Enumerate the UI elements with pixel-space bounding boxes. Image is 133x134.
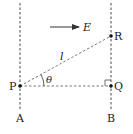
point-q (109, 84, 113, 88)
point-p (18, 84, 22, 88)
line-a-label: A (15, 112, 25, 125)
point-p-label: P (9, 80, 17, 93)
field-label: E (82, 21, 91, 34)
angle-label: θ (46, 74, 52, 85)
diagram-canvas: E l θ P Q R A B (0, 0, 133, 134)
angle-arc (41, 75, 44, 87)
point-q-label: Q (114, 80, 123, 93)
point-r-label: R (114, 30, 123, 43)
point-r (109, 34, 113, 38)
line-b-label: B (107, 112, 115, 125)
segment-pr (20, 36, 111, 86)
length-label: l (60, 50, 64, 63)
